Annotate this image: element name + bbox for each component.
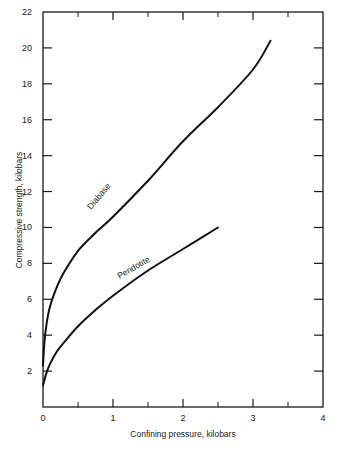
y-tick-label: 16 [22,115,32,125]
y-tick-label: 20 [22,43,32,53]
y-axis-ticks: 246810121416182022 [22,7,323,376]
peridotite-curve [43,228,218,386]
chart: 246810121416182022 01234 Confining press… [0,0,344,452]
data-curves [43,41,271,386]
diabase-curve [43,41,271,366]
diabase-label: Diabase [85,181,113,212]
axes-box [43,12,323,407]
y-tick-label: 18 [22,79,32,89]
x-tick-label: 3 [250,413,255,423]
x-axis-title: Confining pressure, kilobars [130,429,235,439]
x-tick-label: 1 [110,413,115,423]
x-tick-label: 0 [40,413,45,423]
y-axis-title: Compressive strength, kilobars [14,152,24,269]
y-tick-label: 6 [27,294,32,304]
y-tick-label: 4 [27,330,32,340]
plot-frame [43,12,323,407]
y-tick-label: 2 [27,366,32,376]
y-tick-label: 8 [27,258,32,268]
x-tick-label: 2 [180,413,185,423]
y-tick-label: 22 [22,7,32,17]
x-tick-label: 4 [320,413,325,423]
peridotite-label: Peridotite [115,254,151,281]
x-axis-ticks: 01234 [40,12,325,423]
